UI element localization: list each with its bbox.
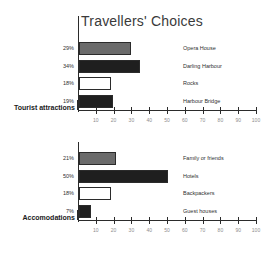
value-axis-line: 10 20 30 40 50 60 70 80 90 100 [78,220,256,221]
tick-label: 90 [235,117,241,123]
tick-label: 60 [182,117,188,123]
axis-corner [77,210,82,220]
tick-label: 50 [164,227,170,233]
tick-label: 90 [235,227,241,233]
axis-title: Accomodations [22,214,75,221]
value-label: 18% [63,187,74,200]
chart-accomodations: 21% Family or friends 50% Hotels 18% Bac… [0,148,266,248]
value-label: 21% [63,152,74,165]
category-label: Opera House [183,42,216,55]
tick-label: 10 [93,227,99,233]
tick-label: 40 [146,227,152,233]
bar [79,42,131,55]
bar [79,60,140,73]
table-row: 21% Family or friends [79,150,256,168]
plot-area: 21% Family or friends 50% Hotels 18% Bac… [78,148,256,220]
table-row: 29% Opera House [79,40,256,58]
bar [79,77,111,90]
tick-label: 70 [200,227,206,233]
tick-label: 60 [182,227,188,233]
tick-label: 20 [111,117,117,123]
bar-group: 29% Opera House 34% Darling Harbour 18% … [79,40,256,110]
table-row: 50% Hotels [79,168,256,186]
value-label: 18% [63,77,74,90]
tick-label: 50 [164,117,170,123]
category-label: Backpackers [183,187,215,200]
tick-label: 80 [218,117,224,123]
chart-tourist-attractions: 29% Opera House 34% Darling Harbour 18% … [0,38,266,138]
category-label: Guest houses [183,205,217,218]
value-label: 29% [63,42,74,55]
axis-corner [77,100,82,110]
bar [79,95,113,108]
table-row: 18% Rocks [79,75,256,93]
category-label: Family or friends [183,152,224,165]
tick-label: 70 [200,117,206,123]
value-label: 34% [63,60,74,73]
tick-label: 80 [218,227,224,233]
table-row: 34% Darling Harbour [79,58,256,76]
value-axis-line: 10 20 30 40 50 60 70 80 90 100 [78,110,256,111]
bar [79,170,168,183]
bar [79,187,111,200]
tick-label: 40 [146,117,152,123]
plot-area: 29% Opera House 34% Darling Harbour 18% … [78,38,256,110]
tick-label: 10 [93,117,99,123]
category-label: Rocks [183,77,198,90]
bar [79,152,116,165]
category-label: Darling Harbour [183,60,222,73]
tick-label: 100 [252,117,260,123]
bar-group: 21% Family or friends 50% Hotels 18% Bac… [79,150,256,220]
axis-title: Tourist attractions [14,104,75,111]
tick-label: 30 [129,227,135,233]
page-title: Travellers' Choices [0,13,266,29]
table-row: 18% Backpackers [79,185,256,203]
category-label: Hotels [183,170,199,183]
tick-label: 30 [129,117,135,123]
category-label: Harbour Bridge [183,95,220,108]
tick-label: 100 [252,227,260,233]
tick-label: 20 [111,227,117,233]
value-label: 50% [63,170,74,183]
